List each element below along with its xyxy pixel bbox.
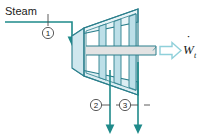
casing-left-end-face <box>72 28 84 76</box>
work-symbol-dot: ̇ <box>188 35 190 38</box>
outlet-2-arrowhead <box>106 125 115 135</box>
station-marker-3: 3 <box>119 99 130 110</box>
steam-inlet-stream <box>5 22 76 46</box>
work-label: W ̇ t <box>183 35 197 60</box>
work-symbol-subscript: t <box>194 51 197 60</box>
rotor-shaft <box>86 46 156 55</box>
diagram-canvas: W ̇ t 1 2 3 <box>0 0 202 139</box>
steam-inlet-label: Steam <box>5 5 37 17</box>
station-2-label: 2 <box>94 101 99 110</box>
shaft-body <box>86 46 156 55</box>
steam-inlet-line <box>5 22 72 38</box>
turbine-schematic-diagram: W ̇ t 1 2 3 <box>0 0 202 139</box>
outlet-3-arrowhead <box>134 125 143 135</box>
work-output-arrow <box>160 43 181 59</box>
station-marker-2: 2 <box>90 99 101 110</box>
work-arrow-shape <box>160 43 181 59</box>
station-marker-1: 1 <box>42 27 53 38</box>
station-1-label: 1 <box>46 29 51 38</box>
station-3-label: 3 <box>123 101 128 110</box>
